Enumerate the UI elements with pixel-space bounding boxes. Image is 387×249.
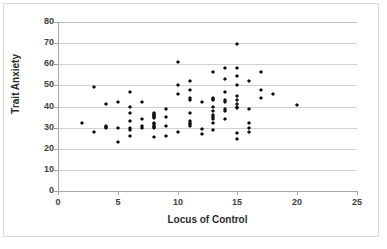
gridline <box>58 149 357 150</box>
scatter-point <box>259 87 263 91</box>
gridline <box>58 85 357 86</box>
scatter-point <box>199 127 203 131</box>
scatter-point <box>175 83 179 87</box>
x-tick-label: 0 <box>43 198 73 207</box>
scatter-point <box>223 77 227 81</box>
y-tick-mark <box>54 22 58 23</box>
scatter-point <box>164 123 168 127</box>
scatter-point <box>223 66 227 70</box>
scatter-point <box>271 92 275 96</box>
gridline <box>58 128 357 129</box>
x-axis-line <box>58 191 358 192</box>
scatter-point <box>223 90 227 94</box>
y-tick-mark <box>54 85 58 86</box>
gridline <box>58 43 357 44</box>
gridline <box>58 170 357 171</box>
y-tick-label: 60 <box>44 59 54 68</box>
scatter-point <box>187 123 191 127</box>
scatter-point <box>223 109 227 113</box>
scatter-point <box>116 140 120 144</box>
x-axis-title: Locus of Control <box>58 214 357 225</box>
scatter-point <box>164 106 168 110</box>
scatter-point <box>235 131 239 135</box>
scatter-point <box>128 111 132 115</box>
scatter-point <box>92 85 96 89</box>
y-tick-label: 80 <box>44 17 54 26</box>
scatter-point <box>140 126 144 130</box>
x-tick-label: 20 <box>282 198 312 207</box>
y-tick-label: 50 <box>44 80 54 89</box>
y-tick-label: 0 <box>49 186 54 195</box>
scatter-point <box>199 132 203 136</box>
scatter-point <box>164 115 168 119</box>
y-tick-label: 20 <box>44 144 54 153</box>
scatter-point <box>116 126 120 130</box>
x-tick-label: 15 <box>222 198 252 207</box>
y-tick-mark <box>54 43 58 44</box>
x-tick-mark <box>237 191 238 195</box>
scatter-point <box>175 130 179 134</box>
x-tick-label: 25 <box>342 198 372 207</box>
x-tick-mark <box>297 191 298 195</box>
scatter-point <box>211 70 215 74</box>
scatter-point <box>199 100 203 104</box>
y-tick-label: 10 <box>44 165 54 174</box>
scatter-point <box>247 121 251 125</box>
scatter-point <box>223 100 227 104</box>
scatter-point <box>152 135 156 139</box>
x-tick-mark <box>58 191 59 195</box>
x-tick-mark <box>118 191 119 195</box>
scatter-point <box>164 134 168 138</box>
scatter-point <box>259 96 263 100</box>
y-tick-mark <box>54 128 58 129</box>
scatter-point <box>259 70 263 74</box>
scatter-point <box>187 111 191 115</box>
chart-frame: Trait Anxiety 01020304050607080 05101520… <box>3 3 379 237</box>
gridline <box>58 64 357 65</box>
scatter-point <box>175 92 179 96</box>
scatter-point <box>187 79 191 83</box>
gridline <box>58 107 357 108</box>
y-tick-label: 30 <box>44 123 54 132</box>
scatter-point <box>128 128 132 132</box>
gridline <box>58 22 357 23</box>
scatter-point <box>235 66 239 70</box>
scatter-point <box>152 126 156 130</box>
scatter-point <box>128 134 132 138</box>
x-tick-label: 5 <box>103 198 133 207</box>
scatter-point <box>128 119 132 123</box>
scatter-point <box>140 117 144 121</box>
scatter-point <box>80 121 84 125</box>
x-tick-label: 10 <box>163 198 193 207</box>
scatter-point <box>235 137 239 141</box>
y-tick-mark <box>54 170 58 171</box>
y-tick-mark <box>54 64 58 65</box>
scatter-point <box>116 100 120 104</box>
y-axis-title: Trait Anxiety <box>10 54 24 114</box>
scatter-point <box>187 98 191 102</box>
x-tick-mark <box>178 191 179 195</box>
x-tick-mark <box>357 191 358 195</box>
scatter-point <box>140 100 144 104</box>
scatter-point <box>104 102 108 106</box>
y-tick-label: 70 <box>44 38 54 47</box>
y-tick-label: 40 <box>44 102 54 111</box>
scatter-point <box>247 79 251 83</box>
scatter-point <box>247 130 251 134</box>
scatter-point <box>223 117 227 121</box>
y-tick-mark <box>54 149 58 150</box>
y-tick-mark <box>54 107 58 108</box>
scatter-point <box>187 87 191 91</box>
scatter-point <box>235 74 239 78</box>
y-axis-line <box>58 22 59 191</box>
scatter-point <box>92 130 96 134</box>
scatter-point <box>211 121 215 125</box>
plot-area: 01020304050607080 0510152025 <box>58 22 357 191</box>
scatter-point <box>128 90 132 94</box>
